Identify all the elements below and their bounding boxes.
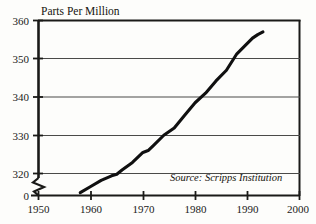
y-tick-label-360: 360 bbox=[13, 15, 30, 27]
x-tick-label-2000: 2000 bbox=[287, 203, 310, 215]
y-tick-label-320: 320 bbox=[13, 168, 30, 180]
x-tick-label-1970: 1970 bbox=[133, 203, 156, 215]
y-tick-label-350: 350 bbox=[13, 53, 30, 65]
y-tick-label-330: 330 bbox=[13, 130, 30, 142]
co2-line-chart: 360 350 340 330 320 0 1950 1960 1970 198… bbox=[0, 0, 316, 224]
x-tick-label-1980: 1980 bbox=[185, 203, 208, 215]
x-tick-label-1960: 1960 bbox=[80, 203, 103, 215]
x-tick-label-1990: 1990 bbox=[237, 203, 260, 215]
x-tick-label-1950: 1950 bbox=[28, 203, 51, 215]
chart-title: Parts Per Million bbox=[41, 5, 120, 17]
y-axis-zero-label: 0 bbox=[24, 190, 30, 202]
source-annotation: Source: Scripps Institution bbox=[170, 172, 282, 183]
chart-canvas: 360 350 340 330 320 0 1950 1960 1970 198… bbox=[0, 0, 316, 224]
chart-background bbox=[0, 0, 316, 224]
y-tick-label-340: 340 bbox=[13, 91, 30, 103]
